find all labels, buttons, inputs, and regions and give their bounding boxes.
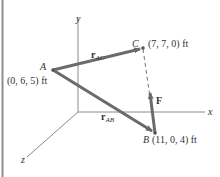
z-axis bbox=[27, 112, 78, 157]
point-a-label: A bbox=[39, 61, 47, 72]
point-a bbox=[51, 68, 55, 72]
x-axis-label: x bbox=[207, 106, 213, 117]
point-b-coords: (11, 0, 4) ft bbox=[152, 134, 197, 146]
vector-r-ab-label: rAB bbox=[101, 111, 115, 124]
point-b-label: B bbox=[143, 134, 149, 145]
point-a-coords: (0, 6, 5) ft bbox=[7, 75, 47, 87]
point-c-coords: (7, 7, 0) ft bbox=[148, 38, 188, 50]
point-c bbox=[141, 46, 145, 50]
y-axis-label: y bbox=[75, 13, 81, 24]
diagram-canvas: y x z A (0, 6, 5) ft C (7, 7, 0) ft B (1… bbox=[0, 0, 220, 177]
r-ab-subscript: AB bbox=[104, 116, 114, 124]
vector-f-label: F bbox=[156, 95, 162, 106]
r-ac-subscript: AC bbox=[94, 54, 104, 62]
z-axis-label: z bbox=[20, 154, 25, 165]
vector-f bbox=[150, 93, 155, 133]
point-c-label: C bbox=[132, 38, 139, 49]
